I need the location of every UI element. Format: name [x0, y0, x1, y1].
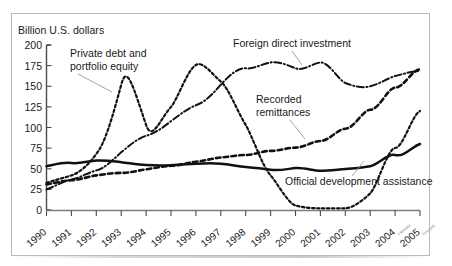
- x-tick-1995: 1995: [149, 226, 173, 249]
- x-tick-2000: 2000: [273, 226, 297, 249]
- x-tick-1993: 1993: [99, 226, 123, 249]
- leader-line-remittances: [290, 120, 305, 139]
- annotation-private-debt-line2: portfolio equity: [70, 60, 139, 72]
- x-tick-label: 1990: [24, 226, 48, 249]
- annotation-remittances-line2: remittances: [256, 106, 310, 118]
- x-tick-1992: 1992: [74, 226, 98, 249]
- x-tick-label: 1991: [49, 226, 73, 249]
- x-tick-label: 2000: [273, 226, 297, 249]
- x-tick-label: 2001: [298, 226, 322, 249]
- x-tick-label: 2003: [348, 226, 372, 249]
- annotation-remittances: Recorded remittances: [256, 93, 310, 139]
- x-tick-2002: 2002: [323, 226, 347, 249]
- x-tick-label: 1998: [223, 226, 247, 249]
- y-tick-125: 125: [24, 101, 42, 113]
- annotation-private-debt-line1: Private debt and: [70, 47, 147, 59]
- x-tick-1997: 1997: [199, 226, 223, 249]
- x-tick-label: 1994: [124, 226, 148, 249]
- x-tick-label: 1993: [99, 226, 123, 249]
- x-tick-label: 2004: [373, 226, 397, 249]
- y-tick-175: 175: [24, 60, 42, 72]
- x-tick-label: 1999: [248, 226, 272, 249]
- y-tick-100: 100: [24, 122, 42, 134]
- annotation-fdi: Foreign direct investment: [233, 37, 351, 65]
- series-foreign-direct-investment: [47, 62, 421, 189]
- annotation-oda-label: Official development assistance: [285, 175, 433, 187]
- y-tick-75: 75: [30, 142, 42, 154]
- x-tick-label: 1997: [199, 226, 223, 249]
- x-tick-1991: 1991: [49, 226, 73, 249]
- x-tick-2001: 2001: [298, 226, 322, 249]
- x-axis: 1990 1991 1992 1993 1994 1995 1996 1997: [24, 211, 436, 252]
- x-tick-1996: 1996: [174, 226, 198, 249]
- y-tick-25: 25: [30, 183, 42, 195]
- leader-line-fdi: [292, 51, 302, 65]
- leader-line-private-debt: [78, 74, 112, 92]
- x-tick-label: 1995: [149, 226, 173, 249]
- annotation-oda: Official development assistance: [285, 161, 433, 187]
- chart-figure: Billion U.S. dollars 200 175 150 125: [0, 0, 452, 266]
- x-tick-label: 1992: [74, 226, 98, 249]
- chart-plot-area: 200 175 150 125 100 75 50 25 0: [0, 0, 452, 266]
- x-tick-2003: 2003: [348, 226, 372, 249]
- y-tick-0: 0: [36, 204, 42, 216]
- annotation-remittances-line1: Recorded: [256, 93, 302, 105]
- y-tick-200: 200: [24, 39, 42, 51]
- x-tick-1994: 1994: [124, 226, 148, 249]
- x-tick-1999: 1999: [248, 226, 272, 249]
- annotation-fdi-label: Foreign direct investment: [233, 37, 351, 49]
- x-tick-1998: 1998: [223, 226, 247, 249]
- x-tick-label: 2002: [323, 226, 347, 249]
- x-tick-superscript: forecast: [421, 223, 436, 237]
- annotation-private-debt: Private debt and portfolio equity: [70, 47, 147, 92]
- x-tick-1990: 1990: [24, 226, 48, 249]
- y-tick-150: 150: [24, 80, 42, 92]
- y-tick-50: 50: [30, 163, 42, 175]
- series-official-development-assistance: [47, 144, 421, 171]
- x-tick-2005: 2005 forecast: [398, 216, 437, 252]
- x-tick-label: 1996: [174, 226, 198, 249]
